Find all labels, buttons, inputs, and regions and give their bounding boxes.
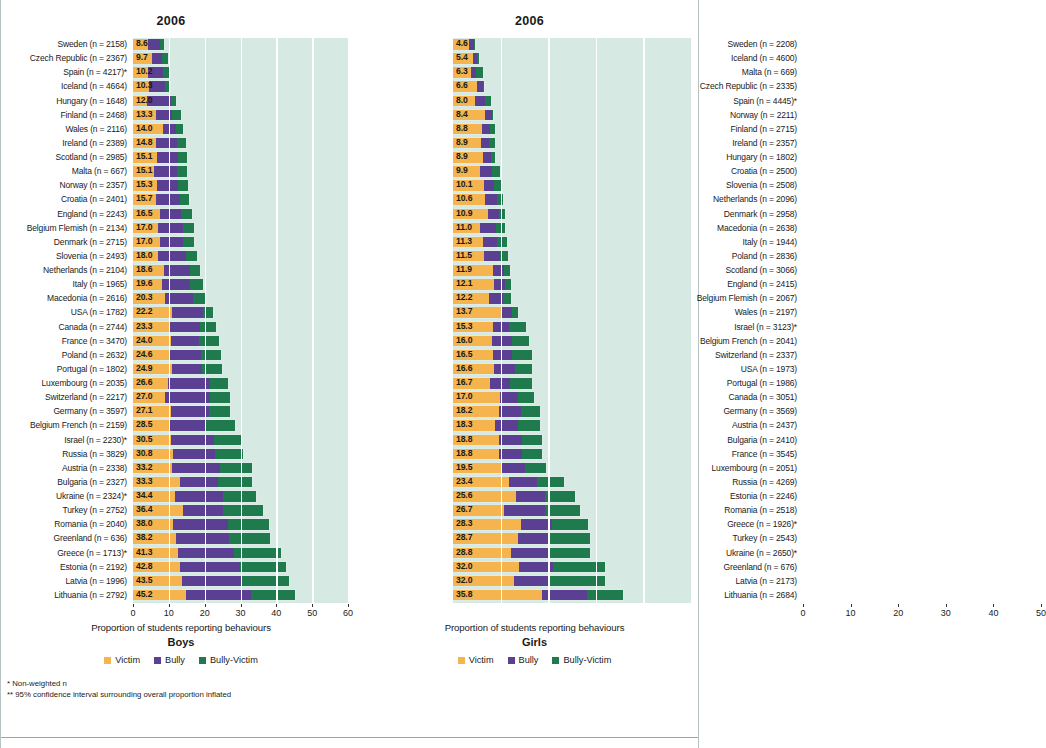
girls-bar-value: 8.9 — [456, 151, 468, 162]
boys-segment-bully-victim — [178, 180, 188, 191]
boys-bar-value: 45.2 — [136, 589, 152, 600]
boys-stacked-bar — [133, 576, 289, 587]
girls-bar-row: 16.6 — [453, 363, 691, 376]
girls-category-label: France (n = 3545) — [732, 448, 797, 461]
girls-segment-bully — [480, 166, 492, 177]
boys-stacked-bar — [133, 519, 269, 530]
boys-category-label: Estonia (n = 2192) — [60, 561, 127, 574]
girls-bar-value: 15.3 — [456, 321, 472, 332]
girls-segment-bully-victim — [509, 322, 526, 333]
girls-bar-value: 8.9 — [456, 137, 468, 148]
boys-bar-value: 14.0 — [136, 123, 152, 134]
girls-segment-bully-victim — [490, 124, 495, 135]
girls-segment-bully-victim — [489, 138, 495, 149]
girls-category-label: Norway (n = 2211) — [730, 109, 797, 122]
boys-segment-bully — [157, 152, 179, 163]
girls-segment-bully-victim — [515, 364, 532, 375]
boys-axis-tick — [133, 604, 134, 607]
girls-bar-row: 9.9 — [453, 165, 691, 178]
girls-category-label: Denmark (n = 2958) — [724, 208, 797, 221]
boys-segment-bully-victim — [251, 590, 295, 601]
boys-category-label: Belgium French (n = 2159) — [30, 419, 127, 432]
boys-segment-bully-victim — [228, 519, 270, 530]
girls-category-label: Greenland (n = 676) — [724, 561, 797, 574]
boys-category-label: Denmark (n = 2715) — [54, 236, 127, 249]
boys-category-label: Ukraine (n = 2324)* — [56, 490, 127, 503]
boys-segment-bully-victim — [171, 96, 176, 107]
boys-axis-title: Proportion of students reporting behavio… — [11, 622, 351, 633]
boys-bar-value: 27.1 — [136, 405, 152, 416]
girls-bar-value: 12.1 — [456, 278, 472, 289]
girls-category-label: USA (n = 1973) — [741, 363, 797, 376]
girls-segment-bully-victim — [552, 519, 588, 530]
girls-bar-row: 8.9 — [453, 137, 691, 150]
boys-category-label: Hungary (n = 1648) — [56, 95, 127, 108]
boys-category-label: Norway (n = 2357) — [59, 179, 127, 192]
boys-segment-bully — [173, 449, 215, 460]
girls-axis-tick — [993, 604, 994, 607]
girls-category-label: Sweden (n = 2208) — [727, 38, 797, 51]
boys-bar-value: 10.3 — [136, 80, 152, 91]
girls-category-label: Poland (n = 2836) — [732, 250, 797, 263]
girls-bar-value: 32.0 — [456, 561, 472, 572]
boys-year-title: 2006 — [0, 14, 351, 28]
boys-category-label: Austria (n = 2338) — [62, 462, 127, 475]
boys-stacked-bar — [133, 548, 281, 559]
boys-axis-tick — [169, 604, 170, 607]
boys-segment-bully — [180, 562, 240, 573]
boys-segment-bully — [171, 336, 199, 347]
girls-segment-bully — [511, 548, 549, 559]
girls-segment-bully — [514, 576, 550, 587]
boys-sex-title: Boys — [11, 636, 351, 648]
girls-bar-row: 25.6 — [453, 490, 691, 503]
girls-segment-bully-victim — [474, 39, 475, 50]
boys-axis-tick — [205, 604, 206, 607]
girls-segment-bully — [493, 350, 512, 361]
girls-bar-value: 12.2 — [456, 292, 472, 303]
girls-segment-bully-victim — [476, 67, 483, 78]
boys-segment-bully-victim — [180, 194, 190, 205]
boys-segment-bully-victim — [210, 378, 229, 389]
girls-bar-value: 26.7 — [456, 504, 472, 515]
girls-bar-row: 32.0 — [453, 561, 691, 574]
boys-segment-bully — [172, 364, 201, 375]
boys-category-label: Wales (n = 2116) — [65, 123, 127, 136]
girls-segment-bully — [484, 180, 494, 191]
girls-category-label: Austria (n = 2437) — [732, 419, 797, 432]
girls-bar-row: 12.1 — [453, 278, 691, 291]
girls-category-label: Finland (n = 2715) — [730, 123, 797, 136]
girls-axis-tick — [851, 604, 852, 607]
girls-bar-row: 11.3 — [453, 236, 691, 249]
boys-segment-bully-victim — [214, 435, 243, 446]
boys-category-label: Israel (n = 2230)* — [64, 434, 127, 447]
girls-segment-bully — [501, 307, 512, 318]
boys-category-label: Portugal (n = 1802) — [57, 363, 127, 376]
boys-bar-value: 30.5 — [136, 434, 152, 445]
boys-category-label: Macedonia (n = 2616) — [47, 292, 127, 305]
boys-segment-bully — [171, 406, 209, 417]
girls-bar-value: 28.8 — [456, 547, 472, 558]
girls-bar-row: 28.7 — [453, 532, 691, 545]
girls-bar-value: 9.9 — [456, 165, 468, 176]
girls-category-label: Italy (n = 1944) — [742, 236, 797, 249]
girls-segment-bully-victim — [512, 336, 530, 347]
girls-segment-bully — [480, 223, 496, 234]
girls-bar-row: 10.6 — [453, 193, 691, 206]
boys-category-label: Ireland (n = 2389) — [62, 137, 127, 150]
boys-category-label: Greece (n = 1713)* — [57, 547, 127, 560]
boys-bar-value: 16.5 — [136, 208, 152, 219]
boys-segment-bully-victim — [218, 477, 252, 488]
boys-category-label: Spain (n = 4217)* — [63, 66, 127, 79]
footnote-line-2: ** 95% confidence interval surrounding o… — [7, 689, 231, 700]
boys-category-label: Bulgaria (n = 2327) — [57, 476, 127, 489]
girls-bar-row: 5.4 — [453, 52, 691, 65]
girls-bar-value: 13.7 — [456, 306, 472, 317]
girls-bar-row: 28.3 — [453, 518, 691, 531]
boys-plot-area: 8.69.710.210.312.013.314.014.815.115.115… — [133, 38, 348, 603]
boys-bar-value: 13.3 — [136, 109, 152, 120]
girls-category-label: Belgium French (n = 2041) — [700, 335, 797, 348]
boys-segment-bully — [154, 166, 177, 177]
boys-axis-tick-label: 30 — [235, 608, 245, 618]
boys-stacked-bar — [133, 562, 286, 573]
girls-axis-title: Proportion of students reporting behavio… — [369, 622, 700, 633]
